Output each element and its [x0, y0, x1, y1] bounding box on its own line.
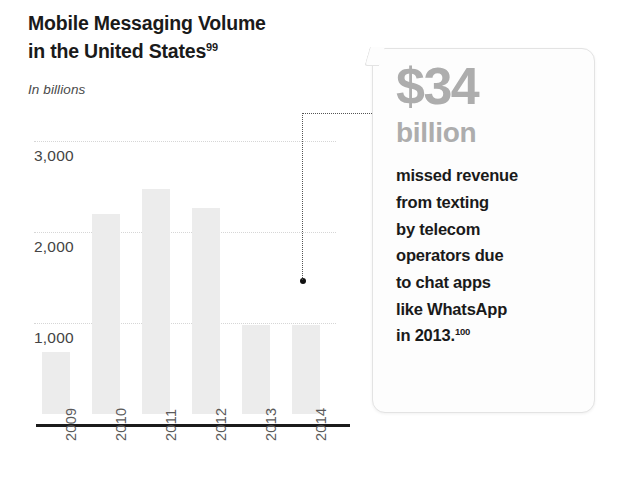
chart-page: Mobile Messaging Volume in the United St…: [0, 0, 626, 504]
bar-chart: 3,000 2,000 1,000 2009 2010 2011 2012 20…: [0, 0, 370, 504]
bar-2010[interactable]: [92, 214, 120, 414]
callout-body-line-6: like WhatsApp: [396, 300, 507, 318]
callout-unit: billion: [396, 116, 586, 150]
callout-body-line-3: by telecom: [396, 220, 480, 238]
callout-body-line-2: from texting: [396, 193, 489, 211]
bar-2013[interactable]: [242, 325, 270, 414]
callout-body-text: missed revenue from texting by telecom o…: [396, 162, 586, 349]
callout-body-line-7: in 2013.: [396, 326, 455, 344]
plot-area: [0, 0, 370, 430]
bar-2014[interactable]: [292, 325, 320, 414]
leader-line-horizontal: [302, 113, 376, 114]
x-axis-label-2013: 2013: [263, 408, 279, 441]
x-axis-label-2009: 2009: [63, 408, 79, 441]
x-axis-label-2014: 2014: [313, 408, 329, 441]
bar-2012[interactable]: [192, 208, 220, 414]
bar-2009[interactable]: [42, 352, 70, 414]
x-axis-line: [36, 424, 350, 427]
bar-2011[interactable]: [142, 189, 170, 414]
callout-body-line-4: operators due: [396, 246, 503, 264]
leader-line-dot: [300, 278, 306, 284]
callout-content: $34 billion missed revenue from texting …: [396, 60, 586, 349]
x-axis-label-2012: 2012: [213, 408, 229, 441]
x-axis-label-2011: 2011: [163, 409, 179, 441]
callout-amount: $34: [396, 60, 586, 114]
callout-footnote-marker: 100: [455, 326, 470, 337]
callout-body-line-1: missed revenue: [396, 166, 518, 184]
callout-body-line-5: to chat apps: [396, 273, 491, 291]
x-axis-label-2010: 2010: [113, 408, 129, 441]
leader-line-vertical: [302, 113, 303, 280]
